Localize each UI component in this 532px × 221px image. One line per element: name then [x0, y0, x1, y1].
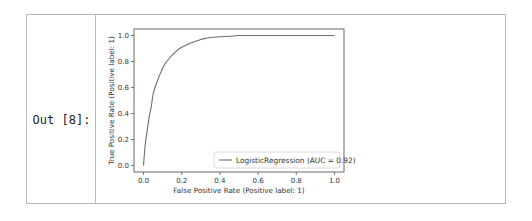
y-tick-label: 0.6 [118, 84, 130, 92]
legend-label: LogisticRegression (AUC = 0.92) [236, 156, 356, 165]
roc-curve-chart: 0.00.20.40.60.81.00.00.20.40.60.81.0Fals… [0, 0, 532, 221]
y-tick-label: 1.0 [118, 32, 129, 40]
x-tick-label: 1.0 [329, 177, 340, 185]
x-tick-label: 0.0 [138, 177, 149, 185]
roc-curve-line [144, 36, 335, 166]
y-tick-label: 0.8 [118, 58, 129, 66]
x-tick-label: 0.2 [176, 177, 187, 185]
y-tick-label: 0.2 [118, 136, 129, 144]
x-tick-label: 0.4 [214, 177, 226, 185]
plot-area [134, 29, 344, 172]
x-tick-label: 0.6 [253, 177, 265, 185]
y-axis-label: True Positive Rate (Positive label: 1) [107, 36, 116, 166]
x-tick-label: 0.8 [291, 177, 302, 185]
x-axis-label: False Positive Rate (Positive label: 1) [173, 186, 305, 195]
y-tick-label: 0.0 [118, 162, 129, 170]
y-tick-label: 0.4 [118, 110, 130, 118]
